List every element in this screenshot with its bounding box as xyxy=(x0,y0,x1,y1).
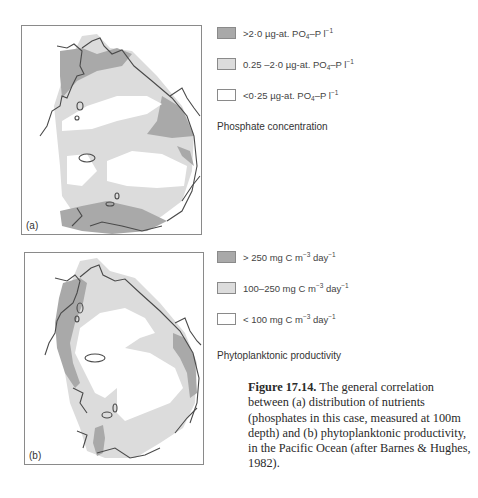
productivity-map xyxy=(25,253,205,466)
legend-item-medium: 100–250 mg C m−3 day−1 xyxy=(217,281,349,295)
legend-item-high: > 250 mg C m−3 day−1 xyxy=(217,250,336,264)
legend-label: 0.25 –2·0 µg-at. PO4–P l−1 xyxy=(243,58,354,71)
swatch-low xyxy=(217,313,236,325)
panel-label-a: (a) xyxy=(26,220,38,231)
legend-item-low: < 100 mg C m−3 day−1 xyxy=(217,312,336,326)
swatch-medium xyxy=(217,282,236,294)
panel-label-b: (b) xyxy=(29,450,41,461)
figure-caption: Figure 17.14. The general correlation be… xyxy=(248,380,478,472)
swatch-high xyxy=(217,27,236,39)
legend-item-low: <0·25 µg-at. PO4–P l−1 xyxy=(217,88,338,102)
map-panel-a: (a) xyxy=(21,25,202,235)
swatch-low xyxy=(217,89,236,101)
legend-label: <0·25 µg-at. PO4–P l−1 xyxy=(243,89,338,102)
legend-label: >2·0 µg-at. PO4–P l−1 xyxy=(243,27,333,40)
legend-title-phosphate: Phosphate concentration xyxy=(217,121,328,132)
swatch-medium xyxy=(217,58,236,70)
legend-item-high: >2·0 µg-at. PO4–P l−1 xyxy=(217,26,333,40)
swatch-high xyxy=(217,251,236,263)
legend-label: > 250 mg C m−3 day−1 xyxy=(243,251,336,263)
legend-label: 100–250 mg C m−3 day−1 xyxy=(243,282,349,294)
figure-label: Figure 17.14. xyxy=(248,380,316,394)
legend-title-productivity: Phytoplanktonic productivity xyxy=(217,350,341,361)
map-panel-b: (b) xyxy=(24,252,204,465)
legend-label: < 100 mg C m−3 day−1 xyxy=(243,313,336,325)
legend-item-medium: 0.25 –2·0 µg-at. PO4–P l−1 xyxy=(217,57,354,71)
phosphate-map xyxy=(22,26,203,236)
